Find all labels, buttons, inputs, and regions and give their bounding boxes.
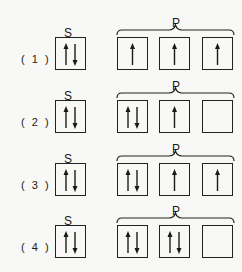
s-orbital-box-updown — [55, 225, 86, 258]
p-orbital-box-up — [159, 37, 190, 70]
option-row-3: ( 3 )S P — [0, 153, 242, 216]
p-orbital-box-updown — [117, 163, 148, 196]
s-orbital-box-updown — [55, 100, 86, 133]
p-orbital-box-up — [202, 37, 233, 70]
p-orbital-box-up — [202, 163, 233, 196]
p-orbital-box-updown — [159, 225, 190, 258]
option-label: ( 1 ) — [21, 54, 51, 65]
p-orbital-box-up — [117, 37, 148, 70]
s-orbital-box-updown — [55, 163, 86, 196]
p-orbital-box-empty — [202, 225, 233, 258]
p-orbital-box-up — [159, 100, 190, 133]
option-label: ( 3 ) — [21, 180, 51, 191]
p-orbital-label: P — [172, 143, 180, 155]
option-row-4: ( 4 )S P — [0, 215, 242, 272]
p-orbital-label: P — [172, 80, 180, 92]
p-orbital-box-updown — [117, 225, 148, 258]
p-orbital-label: P — [172, 205, 180, 217]
option-row-2: ( 2 )S P — [0, 90, 242, 153]
p-orbital-box-up — [159, 163, 190, 196]
option-label: ( 4 ) — [21, 242, 51, 253]
p-orbital-box-updown — [117, 100, 148, 133]
option-label: ( 2 ) — [21, 117, 51, 128]
p-orbital-label: P — [172, 17, 180, 29]
s-orbital-box-updown — [55, 37, 86, 70]
option-row-1: ( 1 )S P — [0, 27, 242, 90]
p-orbital-box-empty — [202, 100, 233, 133]
